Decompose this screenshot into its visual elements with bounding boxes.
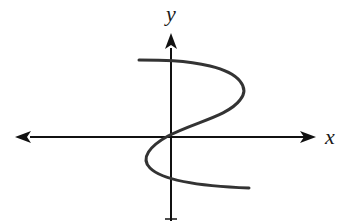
x-axis-label: x (324, 124, 335, 149)
sideways-s-curve (139, 60, 249, 188)
y-axis-label: y (164, 1, 176, 26)
x-axis-left-arrow-icon (15, 131, 31, 143)
graph-figure: y x (0, 0, 359, 221)
y-axis-top-arrow-icon (165, 33, 177, 49)
